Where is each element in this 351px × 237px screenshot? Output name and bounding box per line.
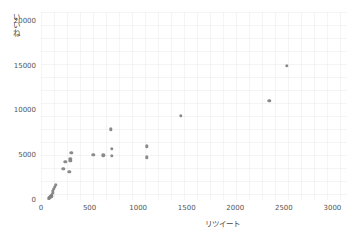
data-point bbox=[268, 99, 271, 102]
x-tick-label: 3000 bbox=[324, 205, 342, 212]
data-point bbox=[110, 154, 113, 157]
data-point bbox=[92, 153, 95, 156]
data-point bbox=[110, 147, 113, 150]
data-point bbox=[145, 145, 148, 148]
plot-area bbox=[41, 12, 347, 200]
x-tick-label: 0 bbox=[39, 205, 43, 212]
data-point bbox=[69, 151, 72, 154]
data-point bbox=[67, 170, 70, 173]
x-axis-title: リツイート bbox=[205, 218, 240, 229]
data-point bbox=[285, 64, 288, 67]
y-axis-title: いいね bbox=[10, 13, 19, 37]
data-point bbox=[64, 160, 67, 163]
y-tick-label: 5000 bbox=[0, 152, 36, 159]
data-point bbox=[68, 159, 71, 162]
x-tick-label: 500 bbox=[83, 205, 96, 212]
data-point bbox=[101, 154, 104, 157]
scatter-chart: 05000100001500020000 0500100015002000250… bbox=[0, 0, 351, 237]
x-tick-label: 1500 bbox=[178, 205, 196, 212]
data-point bbox=[145, 156, 148, 159]
y-tick-label: 15000 bbox=[0, 62, 36, 69]
y-tick-label: 10000 bbox=[0, 107, 36, 114]
x-tick-label: 2500 bbox=[275, 205, 293, 212]
data-point bbox=[47, 197, 50, 200]
x-tick-label: 2000 bbox=[226, 205, 244, 212]
data-point bbox=[109, 128, 112, 131]
data-point bbox=[62, 167, 65, 170]
y-tick-label: 0 bbox=[0, 197, 36, 204]
x-tick-label: 1000 bbox=[129, 205, 147, 212]
data-point bbox=[179, 114, 182, 117]
